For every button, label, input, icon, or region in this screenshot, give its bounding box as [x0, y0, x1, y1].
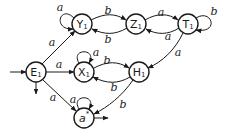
edge-label-e1-astar: a	[50, 91, 57, 104]
edge-label-t1-z1: a	[165, 30, 172, 43]
state-t1: T1	[178, 14, 198, 34]
edge-label-astar-astar: a	[70, 93, 77, 106]
edge-label-z1-y1: b	[104, 33, 111, 46]
automaton-diagram: aaaabbaabaabbba E1Y1Z1T1X1H1a*	[0, 0, 233, 139]
edge-label-z1-t1: a	[158, 6, 165, 19]
edge-label-t1-h1: a	[175, 46, 182, 59]
edge-label-e1-y1: a	[49, 36, 56, 49]
edge-label-h1-astar: b	[119, 98, 126, 111]
edge-label-e1-x1: a	[56, 58, 63, 71]
state-x1: X1	[74, 62, 94, 82]
edge-label-x1-h1: b	[103, 54, 110, 67]
edge-label-y1-z1: b	[104, 4, 111, 17]
state-astar: a*	[74, 108, 94, 128]
edge-x1-h1	[94, 63, 129, 68]
state-y1: Y1	[72, 14, 92, 34]
state-z1: Z1	[126, 14, 146, 34]
edge-t1-z1	[146, 28, 179, 33]
edge-label-h1-x1: b	[110, 81, 117, 94]
edge-label-x1-x1: a	[93, 46, 100, 59]
state-e1: E1	[10, 62, 46, 82]
edge-label-t1-t1: b	[210, 5, 217, 18]
edge-label-y1-y1: a	[57, 1, 64, 14]
state-h1: H1	[129, 62, 149, 82]
